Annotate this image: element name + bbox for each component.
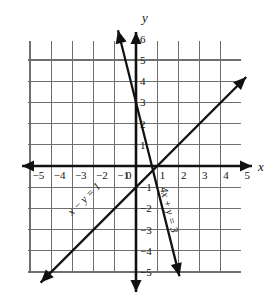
y-tick-label: −1 xyxy=(140,181,152,193)
y-tick-label: 6 xyxy=(140,33,146,45)
y-tick-label: −4 xyxy=(140,245,152,257)
x-tick-label: 0 xyxy=(126,169,132,181)
y-tick-label: 1 xyxy=(140,139,146,151)
x-tick-label: 5 xyxy=(245,169,251,181)
x-tick-label: −5 xyxy=(33,169,45,181)
y-tick-label: −5 xyxy=(140,266,152,278)
y-tick-label: 4 xyxy=(140,75,146,87)
y-tick-label: 2 xyxy=(140,118,146,130)
x-tick-label: 3 xyxy=(202,169,208,181)
y-tick-label: −2 xyxy=(140,202,152,214)
y-axis-label: y xyxy=(140,10,148,25)
x-tick-label: 4 xyxy=(223,169,229,181)
x-tick-label: 2 xyxy=(181,169,187,181)
graph-canvas: −5−4−3−2−1012345 654321−1−2−3−4−5 x y x … xyxy=(0,0,273,308)
y-tick-label: 3 xyxy=(140,96,146,108)
x-axis-label: x xyxy=(257,159,264,174)
x-tick-label: −4 xyxy=(54,169,66,181)
x-tick-label: 1 xyxy=(160,169,166,181)
coordinate-graph: −5−4−3−2−1012345 654321−1−2−3−4−5 x y x … xyxy=(0,0,273,308)
x-tick-label: −3 xyxy=(75,169,87,181)
y-tick-label: 5 xyxy=(140,54,146,66)
x-tick-label: −2 xyxy=(96,169,108,181)
y-tick-label: −3 xyxy=(140,224,152,236)
